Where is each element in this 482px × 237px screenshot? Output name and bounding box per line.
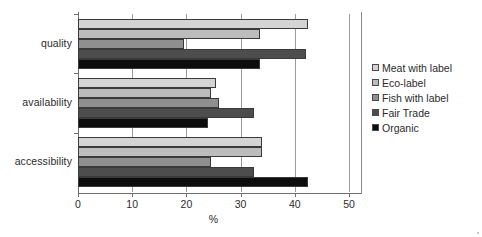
legend-swatch-icon (372, 109, 379, 116)
chart-legend: Meat with labelEco-labelFish with labelF… (372, 60, 480, 135)
y-tick-2 (74, 133, 78, 134)
gridline-30 (241, 14, 242, 192)
y-tick-0 (74, 14, 78, 15)
bar-quality-meat-with-label (78, 19, 308, 29)
legend-item-fish-with-label[interactable]: Fish with label (372, 90, 480, 105)
legend-item-fair-trade[interactable]: Fair Trade (372, 105, 480, 120)
legend-item-organic[interactable]: Organic (372, 120, 480, 135)
x-tick-30 (241, 193, 242, 197)
bar-accessibility-meat-with-label (78, 137, 262, 147)
legend-item-meat-with-label[interactable]: Meat with label (372, 60, 480, 75)
legend-label: Organic (382, 122, 419, 134)
legend-label: Fair Trade (382, 107, 430, 119)
x-axis-title: % (78, 213, 349, 225)
category-label-availability: availability (0, 96, 72, 108)
gridline-50 (349, 14, 350, 192)
corner-artifact (477, 232, 479, 234)
x-tick-0 (78, 193, 79, 197)
bar-accessibility-organic (78, 177, 308, 187)
category-label-accessibility: accessibility (0, 155, 72, 167)
legend-swatch-icon (372, 64, 379, 71)
bar-availability-fair-trade (78, 108, 254, 118)
bar-quality-eco-label (78, 29, 260, 39)
bar-accessibility-fish-with-label (78, 157, 211, 167)
x-tick-20 (186, 193, 187, 197)
x-tick-10 (132, 193, 133, 197)
bar-availability-organic (78, 118, 208, 128)
legend-label: Eco-label (382, 77, 426, 89)
gridline-40 (295, 14, 296, 192)
x-tick-label-0: 0 (75, 198, 81, 210)
bar-availability-meat-with-label (78, 78, 216, 88)
legend-item-eco-label[interactable]: Eco-label (372, 75, 480, 90)
bar-quality-fair-trade (78, 49, 306, 59)
y-tick-1 (74, 73, 78, 74)
x-tick-label-20: 20 (181, 198, 193, 210)
legend-swatch-icon (372, 124, 379, 131)
x-tick-label-10: 10 (126, 198, 138, 210)
x-axis-line (78, 193, 361, 194)
bar-accessibility-fair-trade (78, 167, 254, 177)
bar-availability-eco-label (78, 88, 211, 98)
legend-swatch-icon (372, 79, 379, 86)
bar-quality-organic (78, 59, 260, 69)
plot-area (78, 14, 349, 192)
x-tick-label-50: 50 (343, 198, 355, 210)
bar-accessibility-eco-label (78, 147, 262, 157)
legend-swatch-icon (372, 94, 379, 101)
x-tick-50 (349, 193, 350, 197)
x-tick-40 (295, 193, 296, 197)
x-tick-label-30: 30 (235, 198, 247, 210)
category-label-quality: quality (0, 37, 72, 49)
x-tick-label-40: 40 (289, 198, 301, 210)
legend-label: Meat with label (382, 62, 452, 74)
legend-divider (361, 12, 362, 194)
bar-quality-fish-with-label (78, 39, 184, 49)
bar-availability-fish-with-label (78, 98, 219, 108)
bar-chart: qualityavailabilityaccessibility % Meat … (0, 0, 482, 237)
legend-label: Fish with label (382, 92, 449, 104)
category-axis-labels: qualityavailabilityaccessibility (0, 14, 72, 192)
